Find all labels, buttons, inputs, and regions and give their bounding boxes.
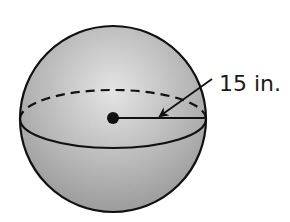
sphere-diagram: 15 in. (0, 0, 290, 222)
radius-label: 15 in. (219, 71, 281, 96)
center-point-dot (107, 112, 119, 124)
